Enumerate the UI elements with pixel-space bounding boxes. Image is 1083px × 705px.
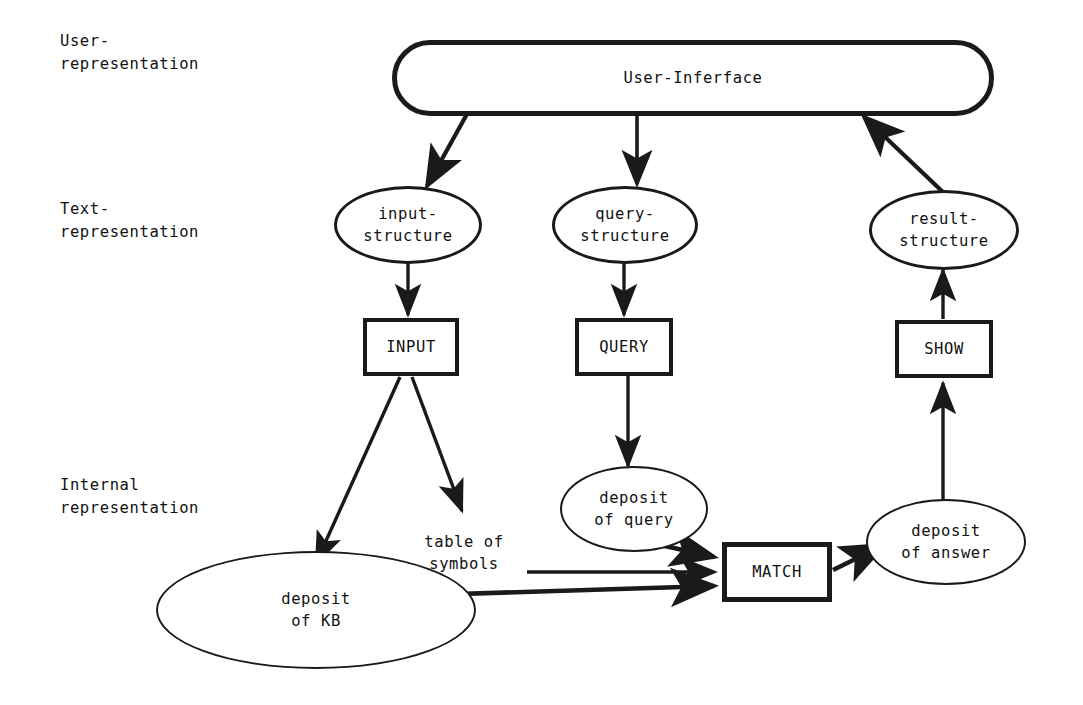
row-label-line2: representation: [60, 55, 199, 73]
node-show-box[interactable]: SHOW: [895, 320, 993, 378]
row-label-line2: representation: [60, 223, 199, 241]
row-label-text-representation: Text-representation: [60, 198, 199, 244]
row-label-line1: Text-: [60, 200, 110, 218]
node-query-box[interactable]: QUERY: [575, 318, 673, 376]
node-match-box[interactable]: MATCH: [722, 542, 832, 602]
edge-ui-to-input-structure: [427, 114, 467, 186]
edge-input-box-to-deposit-of-kb: [316, 377, 400, 563]
diagram-canvas: User-representation Text-representation …: [0, 0, 1083, 705]
row-label-user-representation: User-representation: [60, 30, 199, 76]
node-result-structure[interactable]: result- structure: [869, 190, 1019, 270]
row-label-line1: Internal: [60, 476, 139, 494]
row-label-line2: representation: [60, 499, 199, 517]
node-query-structure[interactable]: query- structure: [552, 186, 698, 264]
node-deposit-of-kb[interactable]: deposit of KB: [156, 551, 476, 669]
node-deposit-of-answer[interactable]: deposit of answer: [866, 499, 1026, 585]
node-input-box[interactable]: INPUT: [363, 318, 459, 376]
node-deposit-of-query[interactable]: deposit of query: [560, 466, 708, 552]
row-label-line1: User-: [60, 32, 110, 50]
node-input-structure[interactable]: input- structure: [334, 186, 482, 264]
edge-input-box-to-table-of-symbols: [412, 377, 462, 511]
edge-result-structure-to-ui: [864, 117, 945, 194]
row-label-internal-representation: Internalrepresentation: [60, 474, 199, 520]
node-user-interface[interactable]: User-Inferface: [392, 40, 994, 116]
